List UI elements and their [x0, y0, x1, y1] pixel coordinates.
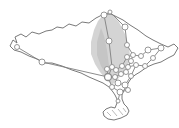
- network-node: [105, 67, 110, 72]
- network-node: [143, 64, 148, 69]
- network-node: [116, 99, 120, 103]
- network-node: [39, 59, 45, 65]
- network-node: [125, 43, 130, 48]
- network-node: [122, 82, 128, 88]
- island-landmass: [10, 14, 178, 120]
- network-node: [124, 70, 129, 75]
- network-node: [134, 63, 139, 68]
- network-node: [139, 54, 144, 59]
- network-node: [15, 45, 20, 50]
- network-node: [158, 45, 164, 51]
- island-network-svg: [0, 0, 179, 128]
- network-node: [110, 85, 115, 90]
- network-node: [114, 68, 119, 73]
- network-node: [126, 65, 131, 70]
- network-node: [129, 74, 134, 79]
- network-node: [106, 38, 112, 44]
- network-node: [101, 12, 107, 18]
- network-node: [119, 72, 124, 77]
- network-node: [108, 10, 112, 14]
- network-node: [126, 88, 131, 93]
- network-node: [129, 59, 134, 64]
- network-node: [151, 56, 156, 61]
- network-node: [131, 53, 136, 58]
- network-node: [120, 64, 125, 69]
- network-node: [125, 55, 130, 60]
- figure-canvas: [0, 0, 179, 128]
- network-node: [117, 89, 123, 95]
- network-node: [105, 74, 112, 81]
- network-node: [115, 80, 121, 86]
- network-node: [145, 47, 151, 53]
- network-node: [122, 24, 128, 30]
- network-node: [113, 75, 118, 80]
